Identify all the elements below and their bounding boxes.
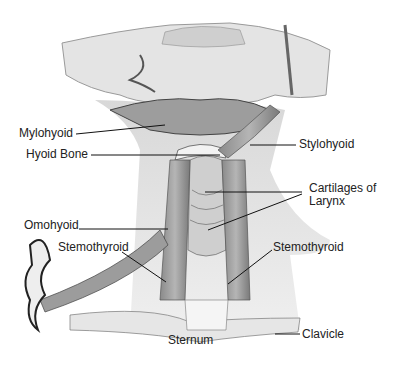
label-mylohyoid: Mylohyoid: [19, 127, 73, 140]
neck-anatomy-diagram: Mylohyoid Hyoid Bone Stylohyoid Cartilag…: [0, 0, 398, 368]
label-sternum: Sternum: [168, 334, 213, 347]
label-omohyoid: Omohyoid: [24, 219, 79, 232]
label-sternothyroid-right: Stemothyroid: [273, 241, 344, 254]
label-stylohyoid: Stylohyoid: [299, 138, 354, 151]
label-cartilages-of-larynx-line2: Larynx: [309, 195, 345, 208]
label-hyoid-bone: Hyoid Bone: [26, 148, 88, 161]
label-clavicle: Clavicle: [302, 328, 344, 341]
label-sternothyroid-left: Stemothyroid: [58, 241, 129, 254]
